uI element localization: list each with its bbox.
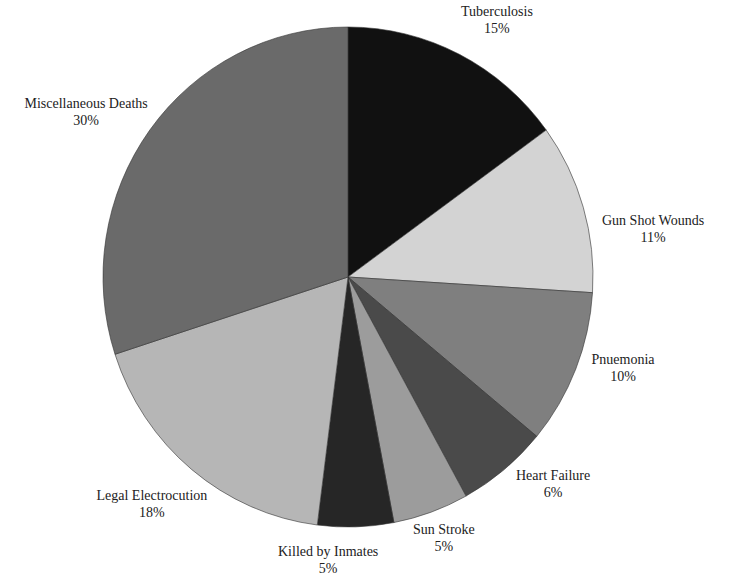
label-legal-electrocution: Legal Electrocution18% [97,487,208,521]
label-percent: 18% [97,504,208,521]
label-percent: 6% [516,484,590,501]
label-tuberculosis: Tuberculosis15% [461,3,533,37]
label-name: Legal Electrocution [97,487,208,504]
label-percent: 15% [461,20,533,37]
label-gun-shot-wounds: Gun Shot Wounds11% [602,212,704,246]
label-name: Heart Failure [516,467,590,484]
label-name: Pnuemonia [592,351,655,368]
label-percent: 10% [592,368,655,385]
label-name: Miscellaneous Deaths [25,95,148,112]
label-percent: 11% [602,229,704,246]
label-pnuemonia: Pnuemonia10% [592,351,655,385]
label-name: Tuberculosis [461,3,533,20]
label-name: Gun Shot Wounds [602,212,704,229]
label-percent: 30% [25,112,148,129]
label-percent: 5% [413,538,475,555]
label-sun-stroke: Sun Stroke5% [413,521,475,555]
pie-slices [103,27,593,527]
label-percent: 5% [278,560,378,577]
label-miscellaneous-deaths: Miscellaneous Deaths30% [25,95,148,129]
label-name: Sun Stroke [413,521,475,538]
label-heart-failure: Heart Failure6% [516,467,590,501]
label-killed-by-inmates: Killed by Inmates5% [278,543,378,577]
label-name: Killed by Inmates [278,543,378,560]
